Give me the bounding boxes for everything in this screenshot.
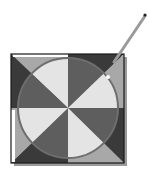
icon-canvas — [0, 0, 149, 178]
radial-gradient-tool-icon — [0, 0, 149, 178]
pen-line — [114, 16, 145, 62]
highlight-dot — [106, 75, 110, 79]
pen-tip — [143, 13, 146, 16]
